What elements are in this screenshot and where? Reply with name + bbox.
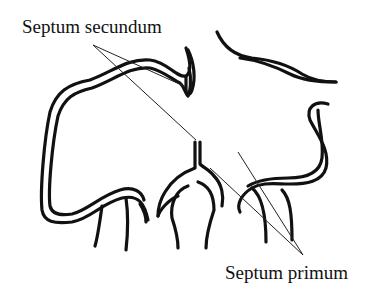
label-septum-secundum: Septum secundum bbox=[22, 17, 162, 36]
atrial-wall-right bbox=[239, 103, 328, 242]
lower-left-prongs bbox=[95, 198, 146, 250]
label-septum-primum: Septum primum bbox=[225, 263, 348, 282]
atrial-wall-left bbox=[41, 48, 190, 223]
atrial-wall-upper-right bbox=[217, 32, 336, 82]
heart-septum-drawing bbox=[0, 0, 385, 300]
diagram-canvas: Septum secundum Septum primum bbox=[0, 0, 385, 300]
septum-primum-structure bbox=[158, 142, 223, 248]
